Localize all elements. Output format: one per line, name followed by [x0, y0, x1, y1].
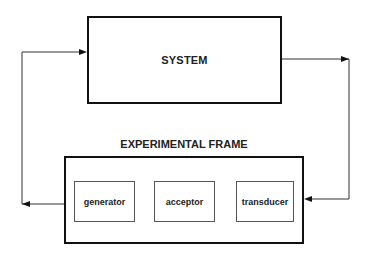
acceptor-label: acceptor [166, 197, 204, 207]
arrowhead-right-output [341, 56, 349, 62]
arrowhead-left-output [22, 201, 30, 207]
generator-label: generator [84, 197, 126, 207]
arrowhead-into-system [79, 49, 87, 55]
transducer-label: transducer [242, 197, 289, 207]
system-label: SYSTEM [161, 54, 207, 66]
transducer-box: transducer [236, 181, 294, 222]
generator-box: generator [74, 181, 135, 222]
system-box: SYSTEM [87, 16, 282, 104]
arrowhead-into-frame [304, 196, 312, 202]
experimental-frame-title: EXPERIMENTAL FRAME [64, 138, 304, 150]
acceptor-box: acceptor [154, 181, 215, 222]
